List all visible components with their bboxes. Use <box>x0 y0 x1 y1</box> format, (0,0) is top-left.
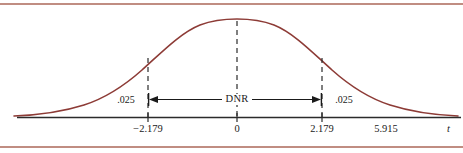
tick-label-pos-2179: 2.179 <box>310 124 334 135</box>
tail-area-label-right: .025 <box>335 95 353 105</box>
tick-label-5915: 5.915 <box>374 124 398 135</box>
tick-label-zero: 0 <box>234 124 239 135</box>
figure-container: .025 .025 DNR −2.179 0 2.179 5.915 t <box>0 0 463 153</box>
axis-variable-label-t: t <box>447 124 450 135</box>
tail-area-label-left: .025 <box>117 95 135 105</box>
dnr-arrowhead-left <box>149 96 158 103</box>
dnr-arrowhead-right <box>312 96 321 103</box>
tick-label-neg-2179: −2.179 <box>133 124 163 135</box>
dnr-region-label: DNR <box>223 94 252 105</box>
